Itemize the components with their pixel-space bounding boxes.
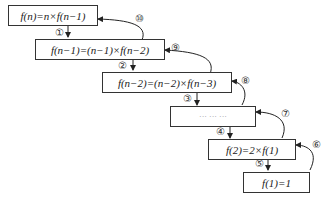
box-f1: f(1)=1 — [243, 172, 310, 193]
step-7: ⑦ — [281, 108, 290, 119]
box-f2: f(2)=2×f(1) — [208, 139, 296, 160]
step-4: ④ — [216, 126, 225, 137]
step-6: ⑥ — [312, 139, 321, 150]
step-2: ② — [118, 60, 127, 71]
box-fn: f(n)=n×f(n−1) — [8, 5, 98, 26]
step-1: ① — [55, 27, 64, 38]
box-ellipsis: ··· ··· ··· — [170, 106, 256, 127]
step-10: ⑩ — [135, 13, 144, 24]
step-9: ⑨ — [171, 42, 180, 53]
arrows — [0, 0, 330, 197]
step-5: ⑤ — [255, 158, 264, 169]
box-fn-2: f(n−2)=(n−2)×f(n−3) — [102, 72, 232, 93]
step-8: ⑧ — [241, 75, 250, 86]
box-fn-1: f(n−1)=(n−1)×f(n−2) — [35, 39, 165, 60]
step-3: ③ — [183, 93, 192, 104]
